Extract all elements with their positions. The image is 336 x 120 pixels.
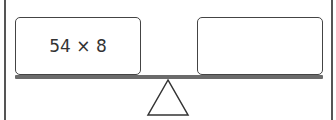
frame-left-border <box>4 0 6 120</box>
frame-right-border <box>331 0 333 120</box>
left-pan-box: 54 × 8 <box>15 17 141 75</box>
fulcrum-triangle-icon <box>146 79 190 117</box>
right-pan-box[interactable] <box>197 17 323 75</box>
left-pan-expression: 54 × 8 <box>49 36 107 56</box>
